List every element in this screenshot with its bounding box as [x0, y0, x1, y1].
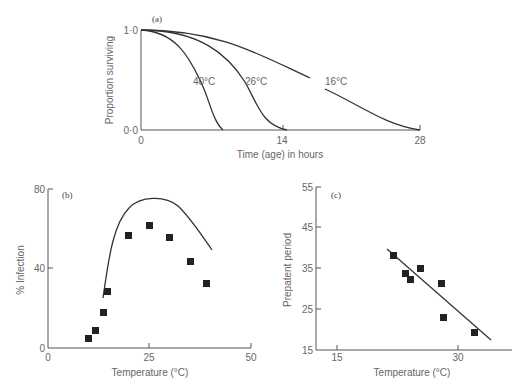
- panel-c-xlabel: Temperature (°C): [374, 367, 451, 378]
- panel-c-ylabel: Prepatent period: [282, 233, 293, 307]
- panel-b-ytick-80: 80: [34, 184, 46, 195]
- panel-b-xtick-0: 0: [45, 352, 51, 363]
- panel-c-points: [390, 252, 478, 336]
- panel-a-xtick-2: 28: [414, 135, 426, 146]
- panel-a-ytick-top: 1·0: [124, 25, 139, 36]
- panel-c-label: (c): [331, 190, 341, 200]
- figure: (a) 1·0 0·0 0 14 28 Time (age) in hours …: [0, 0, 528, 389]
- panel-c-ytick-25: 25: [302, 304, 314, 315]
- curve-label-40c: 40°C: [193, 76, 215, 87]
- panel-b: (b) 80 40 0 0 25 50 Temperature (°C) % I…: [15, 184, 257, 378]
- panel-c-ytick-15: 15: [302, 345, 314, 356]
- panel-c-ytick-45: 45: [302, 222, 314, 233]
- panel-c-ytick-35: 35: [302, 263, 314, 274]
- panel-b-xlabel: Temperature (°C): [112, 367, 189, 378]
- panel-a: (a) 1·0 0·0 0 14 28 Time (age) in hours …: [104, 14, 426, 160]
- curve-label-16c: 16°C: [325, 76, 347, 87]
- panel-a-ylabel: Proportion surviving: [104, 36, 115, 124]
- panel-b-xtick-25: 25: [143, 352, 155, 363]
- panel-a-xtick-0: 0: [138, 135, 144, 146]
- panel-a-xlabel: Time (age) in hours: [237, 149, 323, 160]
- panel-b-label: (b): [62, 190, 73, 200]
- panel-c-xtick-30: 30: [452, 352, 464, 363]
- panel-a-xtick-1: 14: [276, 135, 288, 146]
- panel-c-regression-line: [387, 249, 491, 340]
- curve-label-26c: 26°C: [245, 76, 267, 87]
- panel-c-xtick-15: 15: [331, 352, 343, 363]
- panel-b-fitted-curve: [103, 198, 212, 298]
- panel-a-ytick-bottom: 0·0: [124, 125, 139, 136]
- panel-c: (c) 55 45 35 25 15 15 30 Temperature (°C…: [282, 182, 512, 378]
- curve-16c-b: [325, 89, 420, 130]
- panel-b-points: [85, 222, 210, 342]
- panel-c-ytick-55: 55: [302, 182, 314, 193]
- panel-a-label: (a): [152, 14, 162, 24]
- panel-b-ytick-40: 40: [34, 263, 46, 274]
- panel-b-xtick-50: 50: [245, 352, 257, 363]
- panel-b-ylabel: % Infection: [15, 245, 26, 294]
